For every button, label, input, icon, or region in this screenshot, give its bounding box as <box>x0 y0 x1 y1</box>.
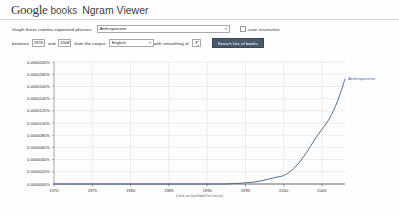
corpus-label: from the corpus <box>74 41 105 46</box>
phrases-row: Graph these comma-separated phrases: Ant… <box>12 25 280 33</box>
series-label-anthropocene[interactable]: Anthropocene <box>348 76 376 81</box>
y-tick-label: 0.0000060% <box>27 145 50 150</box>
y-tick-label: 0.0000180% <box>27 72 50 77</box>
corpus-select[interactable]: English <box>109 39 154 47</box>
y-tick-label: 0.0000020% <box>27 169 50 174</box>
chevron-down-icon <box>149 42 151 44</box>
chart-svg: 0.0000200%0.0000180%0.0000160%0.0000140%… <box>0 54 399 206</box>
and-label: and <box>48 41 55 46</box>
end-year-input[interactable]: 2008 <box>58 39 71 47</box>
options-row: between 1970 and 2008 from the corpus En… <box>12 38 264 48</box>
google-logo[interactable]: Google <box>11 2 47 18</box>
y-tick-label: 0.0000160% <box>27 84 50 89</box>
phrases-label: Graph these comma-separated phrases: <box>12 27 93 32</box>
y-tick-label: 0.0000200% <box>27 60 50 65</box>
between-label: between <box>12 41 29 46</box>
page-title: Ngram Viewer <box>82 4 148 16</box>
y-tick-label: 0.0000100% <box>27 121 50 126</box>
x-tick-label: 1985 <box>164 188 174 193</box>
x-tick-label: 1990 <box>202 188 212 193</box>
stepper-arrows-icon[interactable] <box>196 41 199 46</box>
books-label[interactable]: books <box>50 5 77 16</box>
case-insensitive-label: case-insensitive <box>248 27 280 32</box>
phrases-input[interactable]: Anthropocene <box>97 25 230 33</box>
smoothing-stepper[interactable]: 3 <box>192 39 201 47</box>
x-tick-label: 2000 <box>279 188 289 193</box>
y-tick-label: 0.0000140% <box>27 96 50 101</box>
corpus-value: English <box>112 40 126 46</box>
chevron-down-icon <box>225 28 227 30</box>
x-tick-label: 1970 <box>49 188 59 193</box>
y-tick-label: 0.0000080% <box>27 133 50 138</box>
x-tick-label: 1995 <box>241 188 251 193</box>
end-year-value: 2008 <box>60 40 70 46</box>
chart-background <box>0 54 399 206</box>
smoothing-label: with smoothing of <box>154 41 189 46</box>
start-year-input[interactable]: 1970 <box>32 39 45 47</box>
y-tick-label: 0.0000120% <box>27 108 50 113</box>
x-tick-label: 2005 <box>317 188 327 193</box>
ngram-chart[interactable]: 0.0000200%0.0000180%0.0000160%0.0000140%… <box>0 54 399 206</box>
case-insensitive-control[interactable]: case-insensitive <box>240 26 280 32</box>
x-tick-label: 1975 <box>88 188 98 193</box>
header-divider <box>0 19 399 20</box>
page-header: Google books Ngram Viewer <box>11 2 149 18</box>
start-year-value: 1970 <box>34 40 44 46</box>
y-tick-label: 0.0000000% <box>27 182 50 187</box>
chart-footnote: (click on line/label for focus) <box>0 194 399 198</box>
x-tick-label: 1980 <box>126 188 136 193</box>
y-tick-label: 0.0000040% <box>27 157 50 162</box>
search-button[interactable]: Search lots of books <box>212 38 264 48</box>
ngram-viewer-page: Google books Ngram Viewer Graph these co… <box>0 0 399 217</box>
phrases-input-value: Anthropocene <box>100 26 127 32</box>
case-insensitive-checkbox[interactable] <box>240 26 246 32</box>
